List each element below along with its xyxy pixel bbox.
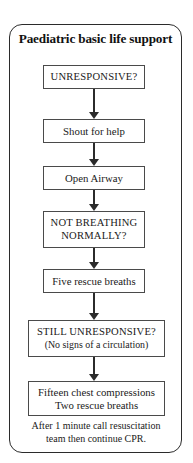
flow-node-still-unresponsive: STILL UNRESPONSIVE? (No signs of a circu… <box>28 320 165 357</box>
arrowhead-icon <box>89 313 99 320</box>
connector-airway-to-notbreathing <box>93 190 95 205</box>
flow-node-not-breathing-line2: NORMALLY? <box>44 230 144 243</box>
flow-node-still-unresponsive-label: STILL UNRESPONSIVE? (No signs of a circu… <box>29 326 164 350</box>
paediatric-bls-flowchart: Paediatric basic life support UNRESPONSI… <box>0 0 193 463</box>
flow-node-chest-compressions-label: Fifteen chest compressions Two rescue br… <box>29 386 164 411</box>
flow-node-unresponsive: UNRESPONSIVE? <box>43 65 145 89</box>
connector-unresponsive-to-shout <box>93 89 95 113</box>
flow-node-unresponsive-label: UNRESPONSIVE? <box>44 71 144 84</box>
flow-node-open-airway-label: Open Airway <box>44 172 144 185</box>
footer-note: After 1 minute call resuscitation team t… <box>14 420 178 446</box>
flow-node-shout-for-help: Shout for help <box>43 119 145 143</box>
connector-notbreathing-to-fiverescue <box>93 248 95 263</box>
arrowhead-icon <box>89 204 99 211</box>
flow-node-still-unresponsive-line1: STILL UNRESPONSIVE? <box>29 326 164 339</box>
arrowhead-icon <box>89 112 99 119</box>
flow-node-not-breathing-normally-label: NOT BREATHING NORMALLY? <box>44 217 144 242</box>
arrowhead-icon <box>89 262 99 269</box>
footer-note-line1: After 1 minute call resuscitation <box>14 420 178 433</box>
page-title: Paediatric basic life support <box>9 31 182 47</box>
flow-node-five-rescue-breaths-label: Five rescue breaths <box>44 275 144 288</box>
connector-shout-to-airway <box>93 143 95 160</box>
flow-node-open-airway: Open Airway <box>43 166 145 190</box>
connector-stillunresponsive-to-compressions <box>93 357 95 375</box>
flow-node-not-breathing-line1: NOT BREATHING <box>44 217 144 230</box>
flow-node-chest-compressions-line2: Two rescue breaths <box>29 399 164 412</box>
flow-node-chest-compressions-line1: Fifteen chest compressions <box>29 386 164 399</box>
flow-node-not-breathing-normally: NOT BREATHING NORMALLY? <box>43 211 145 248</box>
flow-node-shout-for-help-label: Shout for help <box>44 125 144 138</box>
flow-node-chest-compressions: Fifteen chest compressions Two rescue br… <box>28 381 165 416</box>
flow-node-still-unresponsive-line2: (No signs of a circulation) <box>29 339 164 351</box>
arrowhead-icon <box>89 374 99 381</box>
connector-fiverescue-to-stillunresponsive <box>93 293 95 314</box>
arrowhead-icon <box>89 159 99 166</box>
footer-note-line2: team then continue CPR. <box>14 433 178 446</box>
flow-node-five-rescue-breaths: Five rescue breaths <box>43 269 145 293</box>
